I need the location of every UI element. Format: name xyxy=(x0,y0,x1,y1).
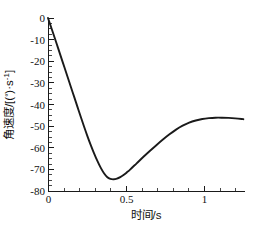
y-tick-label: -20 xyxy=(30,55,45,67)
svg-text:角速度/[(°)·s-1]: 角速度/[(°)·s-1] xyxy=(2,70,15,140)
y-axis-title-tail: ] xyxy=(3,70,15,73)
y-axis-title-mid: )·s xyxy=(3,80,15,94)
y-axis-title: 角速度/[(°)·s-1] xyxy=(2,70,15,140)
x-tick-label: 0.5 xyxy=(120,193,134,205)
y-tick-label: -50 xyxy=(30,120,45,132)
y-tick-label: -70 xyxy=(30,163,45,175)
x-axis-title: 时间/s xyxy=(131,209,162,221)
y-axis-title-main: 角速度/[( xyxy=(2,97,15,140)
chart-figure: 0 -10 -20 -30 -40 -50 -60 -70 -80 0 0.5 … xyxy=(0,0,258,228)
y-tick-label: -10 xyxy=(30,34,45,46)
x-tick-label: 0 xyxy=(46,193,52,205)
angular-velocity-line-chart: 0 -10 -20 -30 -40 -50 -60 -70 -80 0 0.5 … xyxy=(0,0,258,228)
y-tick-label: -60 xyxy=(30,142,45,154)
x-tick-label: 1 xyxy=(202,193,208,205)
y-axis-tick-labels: 0 -10 -20 -30 -40 -50 -60 -70 -80 xyxy=(30,12,45,197)
y-tick-label: 0 xyxy=(40,12,46,24)
y-tick-label: -30 xyxy=(30,77,45,89)
y-tick-label: -40 xyxy=(30,99,45,111)
y-tick-label: -80 xyxy=(30,185,45,197)
